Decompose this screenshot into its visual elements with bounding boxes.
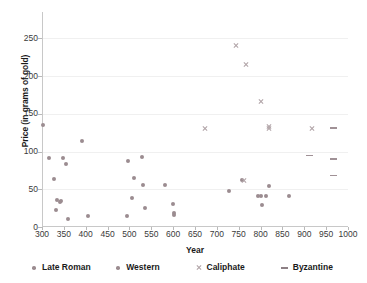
x-tick-mark — [42, 227, 43, 230]
x-tick-mark — [282, 227, 283, 230]
y-tick-mark — [38, 38, 42, 39]
x-axis-title: Year — [42, 245, 348, 255]
plot-area — [42, 12, 348, 227]
x-tick-mark — [129, 227, 130, 230]
y-tick-mark — [38, 76, 42, 77]
y-tick-label: 150 — [14, 109, 38, 118]
legend-label: Western — [126, 262, 159, 272]
legend-label: Byzantine — [293, 262, 333, 272]
x-tick-mark — [261, 227, 262, 230]
x-tick-mark — [195, 227, 196, 230]
x-tick-mark — [304, 227, 305, 230]
y-tick-label: 50 — [14, 185, 38, 194]
x-tick-label: 1000 — [334, 229, 362, 239]
legend-label: Caliphate — [207, 262, 245, 272]
legend-item-late-roman[interactable]: Late Roman — [18, 262, 102, 272]
x-tick-mark — [173, 227, 174, 230]
y-tick-mark — [38, 189, 42, 190]
y-tick-label: 100 — [14, 147, 38, 156]
y-tick-label: 250 — [14, 34, 38, 43]
y-tick-mark — [38, 152, 42, 153]
dash-marker-icon — [281, 263, 289, 271]
dot-marker-icon — [30, 263, 38, 271]
x-tick-mark — [217, 227, 218, 230]
x-tick-mark — [108, 227, 109, 230]
scatter-chart: Price (in grams of gold) 050100150200250… — [0, 0, 367, 283]
legend-item-byzantine[interactable]: Byzantine — [267, 262, 353, 272]
legend-item-caliphate[interactable]: Caliphate — [187, 262, 267, 272]
legend-label: Late Roman — [42, 262, 91, 272]
dot-marker-icon — [114, 263, 122, 271]
x-tick-mark — [151, 227, 152, 230]
y-tick-label: 200 — [14, 72, 38, 81]
chart-legend: Late RomanWesternCaliphateByzantine — [18, 259, 353, 275]
y-tick-mark — [38, 114, 42, 115]
x-tick-mark — [64, 227, 65, 230]
x-marker-icon — [195, 263, 203, 271]
x-tick-mark — [348, 227, 349, 230]
x-tick-mark — [239, 227, 240, 230]
x-tick-mark — [326, 227, 327, 230]
legend-item-western[interactable]: Western — [102, 262, 186, 272]
x-tick-mark — [86, 227, 87, 230]
